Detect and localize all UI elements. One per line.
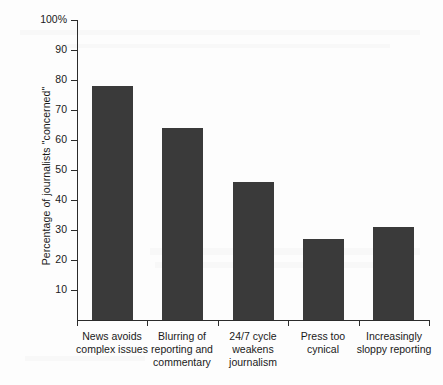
x-axis-label-line: Press too xyxy=(284,330,362,343)
x-axis-label-line: 24/7 cycle xyxy=(214,330,292,343)
y-tick-label: 30 xyxy=(55,223,67,235)
y-tick-label: 50 xyxy=(55,163,67,175)
y-tick-label: 100% xyxy=(40,13,67,25)
x-tick xyxy=(429,320,430,326)
y-tick: 40 xyxy=(71,200,77,201)
x-axis-label-line: reporting and xyxy=(143,343,221,356)
x-axis-label: Blurring ofreporting andcommentary xyxy=(143,330,221,369)
bar xyxy=(303,239,344,320)
y-tick: 10 xyxy=(71,290,77,291)
y-tick: 100% xyxy=(71,20,77,21)
x-axis-label: Press toocynical xyxy=(284,330,362,356)
y-tick-label: 70 xyxy=(55,103,67,115)
x-tick xyxy=(147,320,148,326)
y-tick: 80 xyxy=(71,80,77,81)
bar xyxy=(92,86,133,320)
y-tick: 60 xyxy=(71,140,77,141)
y-tick-label: 10 xyxy=(55,283,67,295)
y-tick: 50 xyxy=(71,170,77,171)
bar xyxy=(373,227,414,320)
y-tick-label: 60 xyxy=(55,133,67,145)
x-axis-label: News avoidscomplex issues xyxy=(73,330,151,356)
x-tick xyxy=(288,320,289,326)
x-axis-line xyxy=(77,320,429,321)
x-axis-label-line: News avoids xyxy=(73,330,151,343)
x-tick xyxy=(218,320,219,326)
y-tick: 70 xyxy=(71,110,77,111)
x-axis-label: 24/7 cycleweakensjournalism xyxy=(214,330,292,369)
y-tick-label: 90 xyxy=(55,43,67,55)
x-axis-label-line: cynical xyxy=(284,343,362,356)
y-tick: 20 xyxy=(71,260,77,261)
x-axis-label-line: weakens xyxy=(214,343,292,356)
x-tick xyxy=(359,320,360,326)
x-axis-label-line: sloppy reporting xyxy=(355,343,433,356)
x-axis-label-line: Increasingly xyxy=(355,330,433,343)
x-axis-label: Increasinglysloppy reporting xyxy=(355,330,433,356)
bar xyxy=(233,182,274,320)
y-axis-title: Percentage of journalists "concerned" xyxy=(40,26,52,326)
y-tick: 30 xyxy=(71,230,77,231)
y-axis-line xyxy=(77,20,78,321)
y-tick-label: 80 xyxy=(55,73,67,85)
plot-area: 102030405060708090100% News avoidscomple… xyxy=(77,20,429,320)
y-tick: 90 xyxy=(71,50,77,51)
x-axis-label-line: commentary xyxy=(143,356,221,369)
x-tick xyxy=(77,320,78,326)
y-tick-label: 20 xyxy=(55,253,67,265)
scan-bleed-artifact xyxy=(25,356,145,361)
x-axis-label-line: Blurring of xyxy=(143,330,221,343)
x-axis-label-line: complex issues xyxy=(73,343,151,356)
x-axis-label-line: journalism xyxy=(214,356,292,369)
y-tick-label: 40 xyxy=(55,193,67,205)
bar xyxy=(162,128,203,320)
chart-figure: Percentage of journalists "concerned" 10… xyxy=(0,0,443,385)
